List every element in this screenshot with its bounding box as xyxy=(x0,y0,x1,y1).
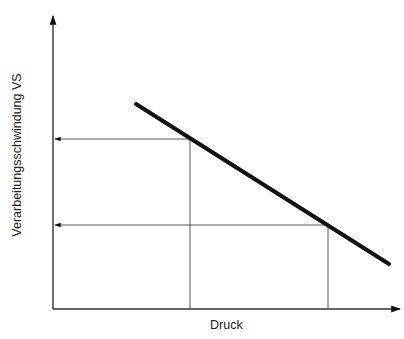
diagram-canvas xyxy=(0,0,404,339)
x-axis-label: Druck xyxy=(210,318,243,332)
y-axis-label: Verarbeitungsschwindung VS xyxy=(10,73,24,236)
vs-pressure-line xyxy=(136,104,389,264)
